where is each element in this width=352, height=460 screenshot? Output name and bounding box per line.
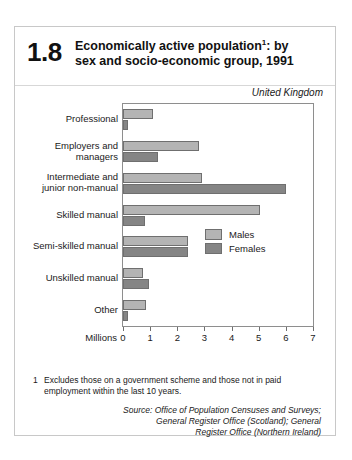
bar-females-3	[123, 184, 286, 194]
chart-subtitle-region: United Kingdom	[252, 87, 323, 98]
figure-title-line1: Economically active population	[75, 39, 262, 53]
y-axis-label-7: Other	[15, 304, 118, 315]
source-line-1: Source: Office of Population Censuses an…	[71, 405, 321, 416]
figure-header: 1.8 Economically active population1: by …	[15, 35, 335, 81]
x-axis-tick-3	[204, 327, 205, 331]
source-line-3: Register Office (Northern Ireland)	[71, 427, 321, 438]
y-axis-label-line: junior non-manual	[15, 182, 118, 193]
footnote-marker: 1	[33, 375, 38, 386]
legend-item-males: Males	[205, 229, 265, 240]
y-axis-label-6: Unskilled manual	[15, 272, 118, 283]
y-axis-label-line: Intermediate and	[15, 171, 118, 182]
footnote-text: Excludes those on a government scheme an…	[44, 375, 321, 397]
chart-area: United Kingdom ProfessionalEmployers and…	[15, 87, 337, 367]
x-axis-tick-label-1: 1	[147, 332, 152, 343]
bars-layer	[123, 104, 313, 326]
figure-title-line1-tail: : by	[266, 39, 288, 53]
legend-swatch-males	[205, 229, 222, 240]
x-axis-tick-0	[123, 327, 124, 331]
y-axis-label-line: Professional	[15, 113, 118, 124]
bar-females-2	[123, 152, 158, 162]
x-axis-tick-label-2: 2	[175, 332, 180, 343]
legend-label-females: Females	[229, 243, 265, 254]
figure-number: 1.8	[27, 37, 62, 67]
bar-males-3	[123, 173, 202, 183]
y-axis-label-line: Unskilled manual	[15, 272, 118, 283]
bar-males-5	[123, 236, 188, 246]
bar-females-4	[123, 216, 145, 226]
y-axis-label-line: Semi-skilled manual	[15, 240, 118, 251]
x-axis-tick-label-3: 3	[202, 332, 207, 343]
x-axis-title: Millions	[15, 332, 117, 343]
figure-title-line2: sex and socio-economic group, 1991	[75, 54, 294, 68]
legend-label-males: Males	[229, 229, 254, 240]
bar-females-1	[123, 120, 128, 130]
source-line-2: General Register Office (Scotland); Gene…	[71, 416, 321, 427]
bar-males-2	[123, 141, 199, 151]
y-axis-label-3: Intermediate andjunior non-manual	[15, 171, 118, 193]
x-axis-tick-6	[286, 327, 287, 331]
x-axis-tick-label-7: 7	[310, 332, 315, 343]
bar-females-7	[123, 311, 128, 321]
legend-swatch-females	[205, 243, 222, 254]
x-axis-tick-1	[150, 327, 151, 331]
bar-males-7	[123, 300, 146, 310]
footnote: 1 Excludes those on a government scheme …	[33, 375, 321, 397]
y-axis-label-2: Employers andmanagers	[15, 140, 118, 162]
x-axis-tick-label-0: 0	[120, 332, 125, 343]
y-axis-label-1: Professional	[15, 113, 118, 124]
y-axis-label-line: managers	[15, 151, 118, 162]
x-axis: 01234567	[122, 327, 314, 347]
x-axis-tick-2	[177, 327, 178, 331]
figure-panel: 1.8 Economically active population1: by …	[14, 26, 336, 436]
y-axis-label-4: Skilled manual	[15, 209, 118, 220]
source-note: Source: Office of Population Censuses an…	[71, 405, 321, 438]
y-axis-label-line: Employers and	[15, 140, 118, 151]
y-axis-label-line: Other	[15, 304, 118, 315]
y-axis-label-5: Semi-skilled manual	[15, 240, 118, 251]
y-axis-category-labels: ProfessionalEmployers andmanagersInterme…	[15, 103, 118, 327]
header-divider	[15, 85, 335, 86]
bar-males-6	[123, 268, 143, 278]
x-axis-tick-4	[232, 327, 233, 331]
x-axis-tick-5	[259, 327, 260, 331]
page-title: Economically active population1: by sex …	[75, 35, 325, 69]
legend-item-females: Females	[205, 243, 265, 254]
chart-legend: MalesFemales	[205, 229, 265, 257]
y-axis-label-line: Skilled manual	[15, 209, 118, 220]
x-axis-tick-label-4: 4	[229, 332, 234, 343]
bar-males-4	[123, 205, 260, 215]
bar-females-6	[123, 279, 149, 289]
x-axis-tick-label-6: 6	[283, 332, 288, 343]
x-axis-tick-7	[313, 327, 314, 331]
bar-males-1	[123, 109, 153, 119]
x-axis-tick-label-5: 5	[256, 332, 261, 343]
bar-females-5	[123, 247, 188, 257]
